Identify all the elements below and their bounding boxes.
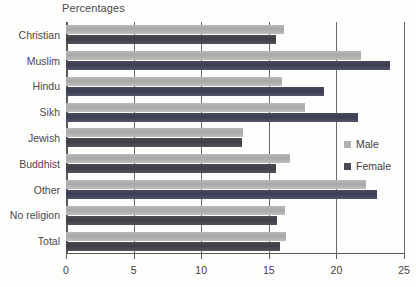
bar-female [66,190,377,199]
bar-male [66,232,286,241]
category-label: Other [34,184,60,196]
bar-group: Christian [66,22,404,48]
category-label: Christian [19,29,60,41]
bar-group: Muslim [66,48,404,74]
category-label: Jewish [28,132,60,144]
bar-male [66,154,290,163]
bar-male [66,180,366,189]
category-label: Sikh [40,106,60,118]
x-axis-tick [269,254,270,259]
x-axis-tick-label: 20 [331,264,343,276]
bar-female [66,242,280,251]
bar-female [66,35,276,44]
bar-female [66,164,276,173]
bar-male [66,51,361,60]
bar-group: Total [66,228,404,254]
chart-title: Percentages [62,2,125,14]
bar-female [66,113,358,122]
bar-group: Hindu [66,74,404,100]
legend-label-female: Female [356,160,391,172]
bar-male [66,77,282,86]
category-label: Total [38,235,60,247]
category-label: Muslim [27,55,60,67]
bar-male [66,206,285,215]
legend-item-female: Female [344,160,391,172]
legend-item-male: Male [344,138,391,150]
bar-male [66,128,243,137]
bar-group: No religion [66,202,404,228]
x-axis-tick [336,254,337,259]
bar-group: Sikh [66,99,404,125]
legend-swatch-female-icon [344,163,351,170]
bar-male [66,103,305,112]
category-label: No religion [10,209,60,221]
chart-legend: Male Female [344,138,391,182]
x-axis-tick [201,254,202,259]
x-axis-tick-label: 10 [195,264,207,276]
legend-swatch-male-icon [344,141,351,148]
x-axis-tick-label: 5 [131,264,137,276]
bar-female [66,87,324,96]
legend-label-male: Male [356,138,379,150]
x-axis-tick-label: 25 [398,264,410,276]
gridline [404,22,405,254]
category-label: Buddhist [19,158,60,170]
bar-chart: Percentages 0510152025 ChristianMuslimHi… [0,0,416,287]
bar-female [66,61,390,70]
x-axis-tick-label: 15 [263,264,275,276]
bar-female [66,216,277,225]
bar-female [66,138,242,147]
x-axis-tick [66,254,67,259]
x-axis-tick [134,254,135,259]
x-axis-tick [404,254,405,259]
category-label: Hindu [33,80,60,92]
x-axis-tick-label: 0 [63,264,69,276]
bar-male [66,25,284,34]
